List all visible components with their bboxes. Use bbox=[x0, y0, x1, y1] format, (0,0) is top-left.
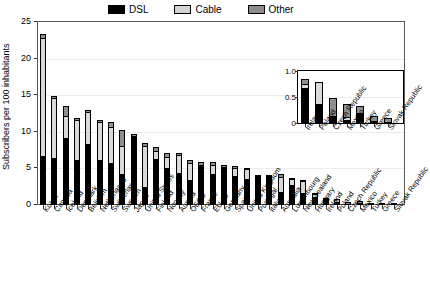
legend-item-cable: Cable bbox=[174, 5, 221, 15]
legend-swatch-other bbox=[248, 5, 265, 14]
bar-segment-cable bbox=[85, 112, 91, 143]
bar-segment-cable bbox=[210, 165, 216, 174]
y-tick-label: 20 bbox=[0, 53, 31, 63]
bar-segment-cable bbox=[232, 168, 238, 175]
legend-label-cable: Cable bbox=[195, 5, 221, 15]
x-axis-labels: KoreaCanadaIcelandDenmarkBelgiumNetherla… bbox=[0, 209, 414, 286]
y-tick-label: 0 bbox=[0, 199, 31, 209]
legend-swatch-cable bbox=[174, 5, 191, 14]
y-tick-label: 25 bbox=[0, 16, 31, 26]
bar-segment-cable bbox=[108, 127, 114, 164]
y-tick-label: 15 bbox=[0, 89, 31, 99]
bar-segment-cable bbox=[51, 98, 57, 158]
inset-x-axis-labels: IrelandPolandCzech RepublicMexicoTurkeyG… bbox=[240, 127, 414, 187]
legend-item-dsl: DSL bbox=[108, 5, 148, 15]
bar-segment-other bbox=[63, 106, 69, 116]
bar bbox=[40, 34, 46, 205]
bar-segment-cable bbox=[63, 116, 69, 139]
bar-segment-other bbox=[119, 130, 125, 146]
inset-bar-segment-cable bbox=[315, 82, 323, 103]
chart-legend: DSL Cable Other bbox=[108, 2, 338, 17]
bar-segment-cable bbox=[187, 163, 193, 181]
bar bbox=[51, 96, 57, 205]
bar-segment-cable bbox=[74, 120, 80, 160]
bar-segment-cable bbox=[119, 146, 125, 175]
inset-y-tick-label: 0.5 bbox=[274, 93, 296, 102]
bar-segment-cable bbox=[142, 146, 148, 187]
bar-segment-dsl bbox=[40, 156, 46, 205]
y-tick-label: 10 bbox=[0, 126, 31, 136]
legend-item-other: Other bbox=[248, 5, 294, 15]
bar-segment-cable bbox=[97, 122, 103, 161]
y-tick-label: 5 bbox=[0, 162, 31, 172]
legend-swatch-dsl bbox=[108, 5, 125, 14]
bar-segment-cable bbox=[153, 151, 159, 159]
bar-segment-cable bbox=[40, 38, 46, 156]
inset-y-tick-label: 1.0 bbox=[274, 67, 296, 76]
legend-label-dsl: DSL bbox=[129, 5, 148, 15]
inset-bar bbox=[301, 79, 309, 123]
y-axis-title: Subscribers per 100 inhabitants bbox=[1, 60, 13, 170]
bar-segment-cable bbox=[176, 155, 182, 173]
bar-segment-cable bbox=[164, 157, 170, 168]
legend-label-other: Other bbox=[269, 5, 294, 15]
